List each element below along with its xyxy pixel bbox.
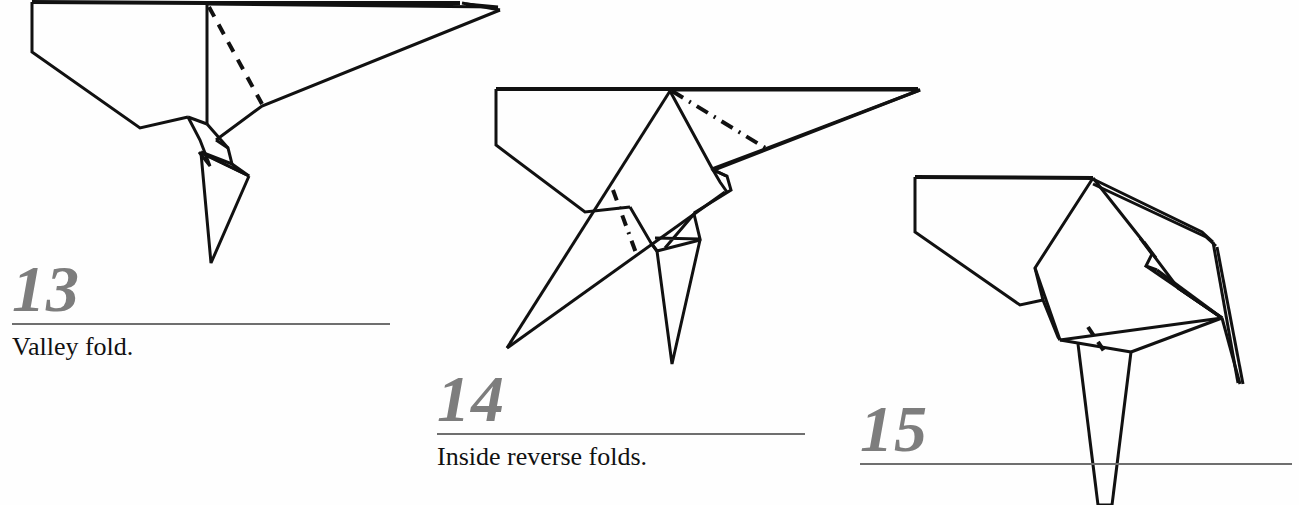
instruction-page: 13 Valley fold. 14 Inside reverse folds.… — [0, 0, 1299, 505]
step-block-13: 13 Valley fold. — [12, 258, 390, 362]
step-caption-14: Inside reverse folds. — [437, 442, 805, 472]
valley-fold-line-step-13 — [209, 7, 262, 104]
step-number-14: 14 — [437, 368, 805, 431]
step-caption-13: Valley fold. — [12, 332, 390, 362]
step-block-14: 14 Inside reverse folds. — [437, 368, 805, 472]
valley-fold-line-step-15 — [1088, 327, 1106, 354]
step-number-15: 15 — [860, 398, 1292, 461]
step-block-15: 15 — [860, 398, 1292, 472]
origami-figure-step-14 — [496, 89, 920, 364]
mountain-fold-lines-step-14 — [613, 91, 767, 253]
step-number-13: 13 — [12, 258, 390, 321]
origami-figure-step-13 — [32, 2, 500, 263]
